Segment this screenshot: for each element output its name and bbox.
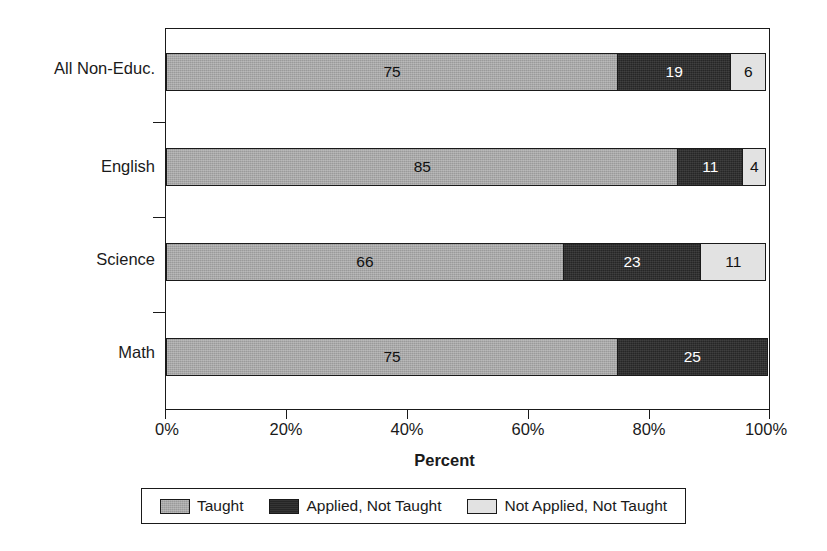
bar-value-not-applied-all-non-educ: 6 <box>744 64 753 80</box>
x-axis-tick-100 <box>769 410 770 419</box>
legend-item-taught[interactable]: Taught <box>160 498 244 514</box>
bar-segment-taught-english[interactable]: 85 <box>166 148 679 186</box>
y-axis-label-english: English <box>101 158 155 175</box>
bar-value-not-applied-science: 11 <box>725 254 741 270</box>
bar-row-science: 66 23 11 <box>166 243 769 281</box>
bar-segment-not-applied-science[interactable]: 11 <box>700 243 766 281</box>
x-axis-tick-40 <box>407 410 408 419</box>
x-axis-title: Percent <box>414 451 475 470</box>
x-axis-tick-label-0: 0% <box>155 421 179 438</box>
bar-segment-applied-all-non-educ[interactable]: 19 <box>617 53 732 91</box>
bar-value-taught-science: 66 <box>356 254 373 270</box>
stacked-bar-science: 66 23 11 <box>166 243 769 281</box>
y-axis-label-math: Math <box>118 344 155 361</box>
y-axis-tick-2 <box>153 217 165 218</box>
legend-label-not-applied-not-taught: Not Applied, Not Taught <box>504 498 667 514</box>
bar-segment-not-applied-english[interactable]: 4 <box>742 148 766 186</box>
bar-segment-applied-english[interactable]: 11 <box>677 148 743 186</box>
legend-item-applied-not-taught[interactable]: Applied, Not Taught <box>269 498 441 514</box>
x-axis-tick-label-60: 60% <box>511 421 544 438</box>
stacked-bar-all-non-educ: 75 19 6 <box>166 53 769 91</box>
x-axis-tick-60 <box>528 410 529 419</box>
bar-value-applied-math: 25 <box>684 349 701 365</box>
chart-legend: Taught Applied, Not Taught Not Applied, … <box>141 488 686 524</box>
legend-label-taught: Taught <box>197 498 244 514</box>
y-axis-label-all-non-educ: All Non-Educ. <box>54 60 155 77</box>
x-axis-tick-label-100: 100% <box>745 421 787 438</box>
legend-swatch-taught-icon <box>160 499 190 514</box>
legend-swatch-applied-not-taught-icon <box>269 499 299 514</box>
legend-label-applied-not-taught: Applied, Not Taught <box>306 498 441 514</box>
legend-item-not-applied-not-taught[interactable]: Not Applied, Not Taught <box>467 498 667 514</box>
bar-row-math: 75 25 <box>166 338 769 376</box>
bar-segment-applied-math[interactable]: 25 <box>617 338 768 376</box>
stacked-bar-english: 85 11 4 <box>166 148 769 186</box>
y-axis-label-science: Science <box>96 251 155 268</box>
bar-value-applied-science: 23 <box>623 254 640 270</box>
bar-segment-taught-math[interactable]: 75 <box>166 338 618 376</box>
y-axis-tick-3 <box>153 312 165 313</box>
bar-segment-not-applied-all-non-educ[interactable]: 6 <box>730 53 766 91</box>
bar-value-applied-all-non-educ: 19 <box>666 64 683 80</box>
bar-segment-taught-science[interactable]: 66 <box>166 243 564 281</box>
stacked-bar-math: 75 25 <box>166 338 769 376</box>
bar-row-english: 85 11 4 <box>166 148 769 186</box>
x-axis-tick-label-80: 80% <box>632 421 665 438</box>
bar-value-taught-english: 85 <box>414 159 431 175</box>
stacked-bar-chart-figure: All Non-Educ. English Science Math 75 19… <box>0 0 827 551</box>
y-axis-tick-1 <box>153 122 165 123</box>
legend-swatch-not-applied-not-taught-icon <box>467 499 497 514</box>
plot-area: 75 19 6 85 11 4 <box>165 28 770 410</box>
x-axis-tick-0 <box>165 410 166 419</box>
x-axis-tick-label-40: 40% <box>390 421 423 438</box>
x-axis-tick-20 <box>286 410 287 419</box>
bar-segment-applied-science[interactable]: 23 <box>563 243 702 281</box>
bar-row-all-non-educ: 75 19 6 <box>166 53 769 91</box>
bar-value-taught-all-non-educ: 75 <box>384 64 401 80</box>
bar-value-taught-math: 75 <box>384 349 401 365</box>
x-axis-tick-80 <box>649 410 650 419</box>
bar-segment-taught-all-non-educ[interactable]: 75 <box>166 53 618 91</box>
x-axis-tick-label-20: 20% <box>269 421 302 438</box>
bar-value-not-applied-english: 4 <box>750 159 759 175</box>
bar-value-applied-english: 11 <box>702 159 718 175</box>
x-axis-title-wrapper: Percent <box>0 451 827 470</box>
